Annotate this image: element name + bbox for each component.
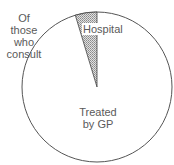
chart-title: Of those who consult <box>4 12 44 60</box>
gp-label-line: by GP <box>78 118 118 130</box>
title-line: Of those <box>4 12 44 36</box>
title-line: consult <box>4 48 44 60</box>
hospital-label: Hospital <box>82 23 124 35</box>
title-line: who <box>4 36 44 48</box>
gp-label-line: Treated <box>78 106 118 118</box>
gp-label: Treated by GP <box>78 106 118 130</box>
